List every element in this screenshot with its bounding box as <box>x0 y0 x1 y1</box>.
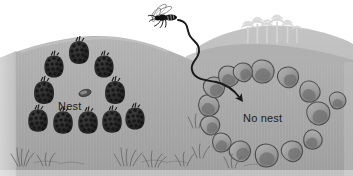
no-nest-label: No nest <box>243 112 282 124</box>
illustration-svg <box>0 0 353 176</box>
soil-cross-section-right <box>344 62 353 176</box>
soil-cross-section <box>0 51 16 176</box>
figure-canvas: Nest No nest <box>0 0 353 176</box>
nest-label: Nest <box>58 100 81 112</box>
bottom-edge-fade <box>0 170 353 176</box>
